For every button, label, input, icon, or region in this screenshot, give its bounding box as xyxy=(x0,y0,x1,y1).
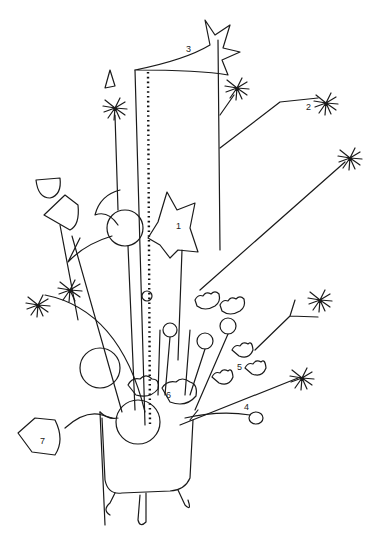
flower-pot-illustration: 1 2 3 4 5 6 7 xyxy=(0,0,373,545)
label-5: 5 xyxy=(237,362,242,372)
flower-4 xyxy=(249,412,263,424)
flower-1 xyxy=(148,192,198,258)
pot xyxy=(100,410,198,525)
cup-flower xyxy=(36,178,60,198)
label-2: 2 xyxy=(306,102,311,112)
label-6: 6 xyxy=(166,390,171,400)
label-1: 1 xyxy=(176,221,181,231)
flower-7 xyxy=(18,418,60,455)
label-3: 3 xyxy=(186,44,191,54)
label-4: 4 xyxy=(244,402,249,412)
triangle-bud xyxy=(105,70,115,88)
label-7: 7 xyxy=(40,436,45,446)
